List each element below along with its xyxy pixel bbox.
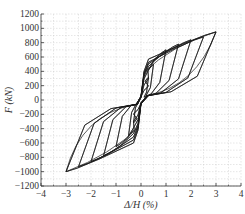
tick-labels: −1200−1000−800−600−400−20002004006008001… <box>15 9 244 199</box>
x-tick-label: −2 <box>86 189 96 199</box>
hysteresis-chart: −1200−1000−800−600−400−20002004006008001… <box>0 0 245 214</box>
y-tick-label: 800 <box>25 38 40 48</box>
x-axis-label: Δ/H (%) <box>123 199 158 211</box>
y-axis-label: F (kN) <box>3 86 15 114</box>
x-tick-label: 4 <box>239 189 244 199</box>
y-tick-label: 1200 <box>20 9 39 19</box>
y-tick-label: −800 <box>19 152 39 162</box>
y-tick-label: 200 <box>25 81 40 91</box>
x-tick-label: 3 <box>214 189 219 199</box>
y-tick-label: −600 <box>19 138 39 148</box>
y-tick-label: −400 <box>19 124 39 134</box>
x-tick-label: 2 <box>189 189 194 199</box>
y-tick-label: −200 <box>19 109 39 119</box>
x-tick-label: −4 <box>36 189 46 199</box>
y-tick-label: −1000 <box>15 167 40 177</box>
y-tick-label: 0 <box>34 95 39 105</box>
x-tick-label: −1 <box>111 189 121 199</box>
x-tick-label: 0 <box>139 189 144 199</box>
y-tick-label: 400 <box>25 66 40 76</box>
y-tick-label: 600 <box>25 52 40 62</box>
y-tick-label: 1000 <box>20 23 39 33</box>
x-tick-label: −3 <box>61 189 71 199</box>
x-tick-label: 1 <box>164 189 169 199</box>
